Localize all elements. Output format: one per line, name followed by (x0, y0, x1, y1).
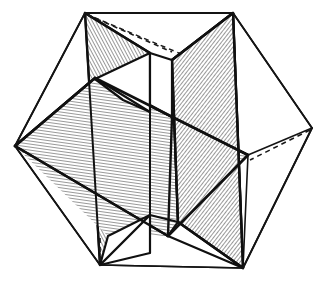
polyhedron-diagram (0, 0, 325, 281)
figure-canvas (0, 0, 325, 281)
